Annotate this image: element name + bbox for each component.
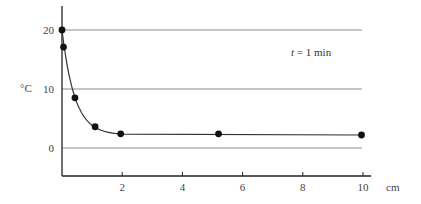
x-tick-label: 4 xyxy=(180,181,186,193)
x-ticks: 246810 xyxy=(119,172,369,193)
data-point xyxy=(215,130,222,137)
y-tick-label: 20 xyxy=(43,24,55,36)
data-point xyxy=(92,123,99,130)
data-point xyxy=(117,130,124,137)
data-point xyxy=(59,27,66,34)
axes xyxy=(62,6,371,176)
y-tick-label: 0 xyxy=(49,142,55,154)
annotation-text: = 1 min xyxy=(294,46,332,58)
chart: 246810 01020 cm °C t = 1 min xyxy=(0,0,421,204)
x-axis-label: cm xyxy=(386,181,400,193)
y-ticks: 01020 xyxy=(43,24,55,154)
x-tick-label: 8 xyxy=(300,181,306,193)
x-tick-label: 10 xyxy=(358,181,370,193)
y-axis-label: °C xyxy=(20,82,32,94)
data-point xyxy=(358,132,365,139)
x-tick-label: 2 xyxy=(119,181,125,193)
annotation: t = 1 min xyxy=(291,46,332,58)
x-tick-label: 6 xyxy=(240,181,246,193)
data-point xyxy=(72,94,79,101)
data-markers xyxy=(59,27,365,139)
y-tick-label: 10 xyxy=(43,83,55,95)
data-point xyxy=(60,44,67,51)
